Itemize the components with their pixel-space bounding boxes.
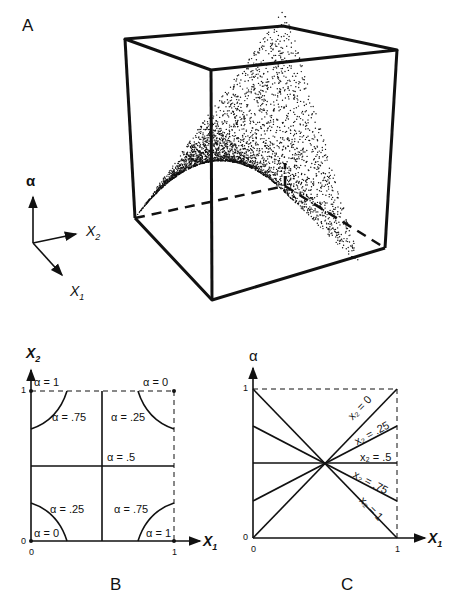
b-y-tick-1: 1 xyxy=(21,385,26,395)
b-x-axis-label: X1 xyxy=(203,533,217,552)
b-label-a1-tl: α = 1 xyxy=(34,376,59,388)
b-x-tick-0: 0 xyxy=(29,547,34,557)
c-y-axis-label: α xyxy=(249,347,258,364)
panel-b-label: B xyxy=(110,575,121,595)
c-x-tick-1: 1 xyxy=(395,544,400,554)
c-y-tick-1: 1 xyxy=(243,383,248,393)
b-label-a1-br: α = 1 xyxy=(146,527,171,539)
b-label-a0-tr: α = 0 xyxy=(143,376,168,388)
panel-c-label: C xyxy=(341,575,353,595)
panel-c-plot xyxy=(253,368,425,538)
c-label-x2-5: x₂ = .5 xyxy=(360,451,391,463)
b-label-a75-tl: α = .75 xyxy=(52,411,86,423)
axes-indicator xyxy=(33,197,76,275)
x2-axis-label: X2 xyxy=(86,223,100,242)
x1-axis-label: X1 xyxy=(70,283,84,302)
c-y-tick-0: 0 xyxy=(243,532,248,542)
b-label-a5: α = .5 xyxy=(107,451,135,463)
b-y-tick-0: 0 xyxy=(21,536,26,546)
c-x-axis-label: X1 xyxy=(428,530,442,549)
b-x-tick-1: 1 xyxy=(172,547,177,557)
saddle-surface xyxy=(137,12,358,261)
figure-graphics xyxy=(0,0,461,616)
b-label-a25-bl: α = .25 xyxy=(50,503,84,515)
b-label-a75-br: α = .75 xyxy=(114,503,148,515)
b-label-a0-bl: α = 0 xyxy=(34,527,59,539)
b-y-axis-label: X2 xyxy=(26,345,40,364)
b-label-a25-tr: α = .25 xyxy=(111,411,145,423)
c-x-tick-0: 0 xyxy=(251,544,256,554)
alpha-axis-label: α xyxy=(26,172,35,189)
